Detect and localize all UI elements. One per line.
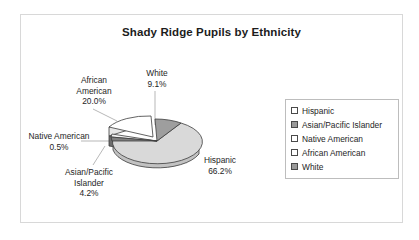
legend-swatch-white (291, 163, 298, 170)
data-label-white-name: White (129, 68, 185, 79)
legend-item-hispanic[interactable]: Hispanic (291, 104, 393, 117)
legend-label-asian-pacific-islander: Asian/Pacific Islander (302, 120, 382, 130)
legend-item-african-american[interactable]: African American (291, 146, 393, 159)
legend-label-native-american: Native American (302, 134, 363, 144)
legend-swatch-african-american (291, 149, 298, 156)
data-label-white-value: 9.1% (129, 79, 185, 90)
data-label-native-american: Native American 0.5% (13, 131, 105, 152)
data-label-native-american-name: Native American (13, 131, 105, 142)
legend-item-asian-pacific-islander[interactable]: Asian/Pacific Islander (291, 118, 393, 131)
data-label-asian-pacific-islander: Asian/Pacific Islander 4.2% (53, 167, 125, 199)
data-label-african-american-value: 20.0% (63, 96, 125, 107)
data-label-white: White 9.1% (129, 68, 185, 89)
data-label-hispanic-value: 66.2% (189, 166, 251, 177)
legend-label-white: White (302, 162, 323, 172)
chart-legend: Hispanic Asian/Pacific Islander Native A… (285, 99, 399, 179)
legend-label-african-american: African American (302, 148, 365, 158)
data-label-asian-pacific-islander-name-line1: Asian/Pacific (53, 167, 125, 178)
legend-swatch-hispanic (291, 107, 298, 114)
data-label-african-american-name-line2: American (63, 86, 125, 97)
data-label-asian-pacific-islander-value: 4.2% (53, 188, 125, 199)
legend-swatch-native-american (291, 135, 298, 142)
data-label-asian-pacific-islander-name-line2: Islander (53, 178, 125, 189)
legend-swatch-asian-pacific-islander (291, 121, 298, 128)
leader-line-african-american (93, 109, 117, 121)
data-label-hispanic-name: Hispanic (189, 155, 251, 166)
data-label-hispanic: Hispanic 66.2% (189, 155, 251, 176)
legend-item-native-american[interactable]: Native American (291, 132, 393, 145)
legend-item-white[interactable]: White (291, 160, 393, 173)
legend-label-hispanic: Hispanic (302, 106, 334, 116)
data-label-african-american-name-line1: African (63, 75, 125, 86)
data-label-native-american-value: 0.5% (13, 142, 105, 153)
data-label-african-american: African American 20.0% (63, 75, 125, 107)
chart-frame: Shady Ridge Pupils by Ethnicity (20, 14, 403, 223)
